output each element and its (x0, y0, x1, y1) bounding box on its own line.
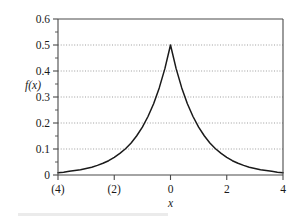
y-tick-label-0.1: 0.1 (36, 143, 51, 155)
x-tick-label--4: (4) (51, 183, 65, 196)
x-axis-title: x (167, 197, 174, 209)
y-tick-labels: 0.6 0.5 0.4 0.3 0.2 0.1 0 (36, 13, 51, 181)
chart-figure: 0.6 0.5 0.4 0.3 0.2 0.1 0 (4) (2) 0 2 4 … (0, 0, 303, 218)
plot-background (58, 19, 283, 175)
x-tick-label-4: 4 (280, 183, 286, 195)
laplace-density-chart: 0.6 0.5 0.4 0.3 0.2 0.1 0 (4) (2) 0 2 4 … (0, 0, 303, 218)
y-tick-label-0.2: 0.2 (36, 117, 51, 129)
y-tick-label-0.3: 0.3 (36, 91, 51, 103)
y-tick-label-0.6: 0.6 (36, 13, 51, 25)
x-axis-ticks (58, 175, 283, 180)
x-tick-label-2: 2 (224, 183, 230, 195)
y-axis-ticks (53, 19, 58, 175)
x-tick-labels: (4) (2) 0 2 4 (51, 183, 286, 196)
x-tick-label--2: (2) (108, 183, 122, 196)
scan-artifact (18, 213, 168, 216)
x-tick-label-0: 0 (168, 183, 174, 195)
y-tick-label-0.5: 0.5 (36, 39, 51, 51)
y-axis-title: f(x) (25, 79, 41, 92)
y-tick-label-0.4: 0.4 (36, 65, 51, 77)
y-tick-label-0: 0 (44, 169, 50, 181)
